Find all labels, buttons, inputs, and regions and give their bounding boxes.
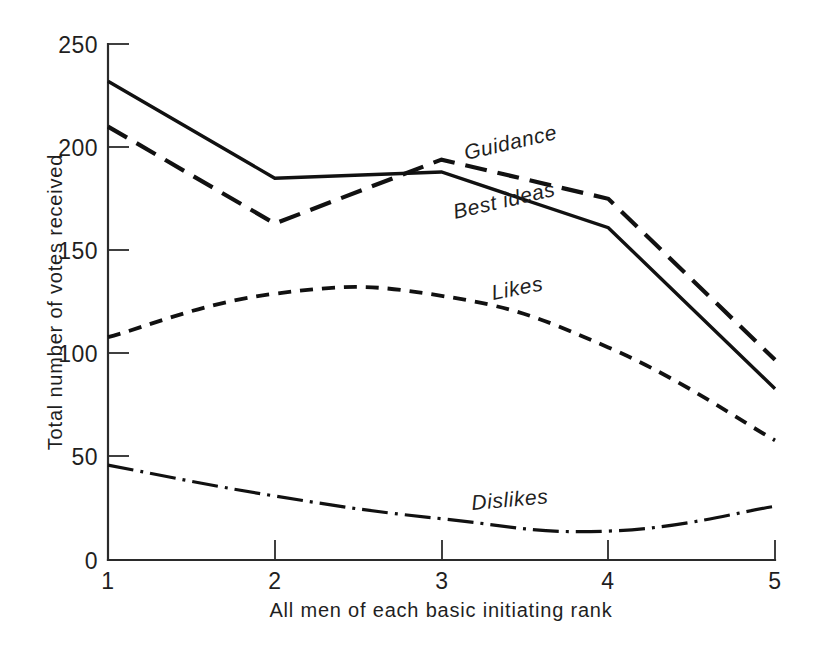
y-axis-title: Total number of votes received	[44, 154, 66, 450]
x-tick-label-4: 4	[601, 568, 614, 594]
series-line-dislikes	[108, 465, 775, 532]
y-axis-ticks	[108, 44, 129, 560]
y-tick-label-250: 250	[58, 32, 98, 58]
x-tick-label-3: 3	[435, 568, 448, 594]
series-label-dislikes: Dislikes	[470, 484, 549, 514]
x-axis-tick-labels: 1 2 3 4 5	[101, 568, 781, 594]
y-tick-label-50: 50	[71, 444, 98, 470]
x-axis-ticks	[108, 540, 775, 560]
series-line-best-ideas	[108, 81, 775, 389]
series-label-best-ideas: Best ideas	[451, 177, 558, 223]
series-line-likes	[108, 287, 775, 440]
series-label-likes: Likes	[489, 271, 544, 304]
x-tick-label-2: 2	[268, 568, 281, 594]
y-tick-label-0: 0	[85, 548, 98, 574]
series-label-guidance: Guidance	[462, 120, 559, 164]
series-line-guidance	[108, 127, 775, 360]
series-paths	[108, 81, 775, 531]
x-axis-title: All men of each basic initiating rank	[269, 599, 612, 621]
x-tick-label-1: 1	[101, 568, 114, 594]
x-tick-label-5: 5	[768, 568, 781, 594]
line-chart: 250 200 150 100 50 0 1 2 3 4 5 All men o…	[0, 0, 813, 646]
chart-figure: 250 200 150 100 50 0 1 2 3 4 5 All men o…	[0, 0, 813, 646]
